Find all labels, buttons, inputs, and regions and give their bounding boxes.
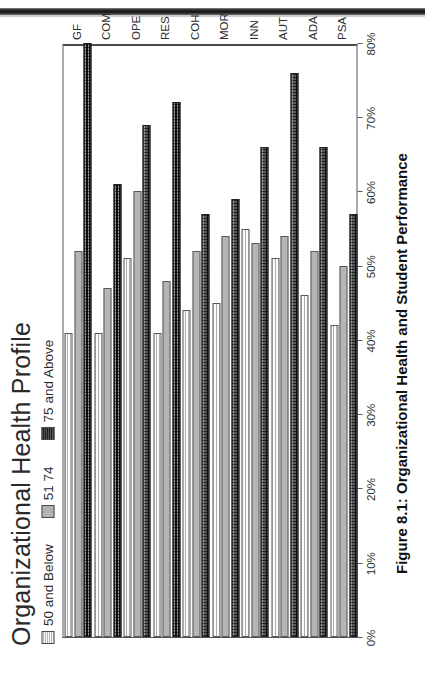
- chart-legend: 50 and Below 51 74 75 and Above: [40, 340, 55, 644]
- scanned-page: Organizational Health Profile 50 and Bel…: [0, 0, 425, 694]
- mid-gray-swatch: [41, 505, 54, 518]
- bar-com-s1: [103, 288, 111, 637]
- bar-group: [181, 46, 211, 637]
- axis-tick-label: 10%: [364, 552, 376, 575]
- axis-tick: [357, 563, 362, 564]
- bar-mor-s2: [231, 199, 239, 637]
- category-label-coh: COH: [188, 14, 200, 40]
- axis-tick-label: 20%: [364, 478, 376, 501]
- axis-tick: [357, 192, 362, 193]
- bar-inn-s2: [260, 147, 268, 637]
- bar-group: [122, 46, 152, 637]
- bar-ope-s2: [142, 125, 150, 637]
- figure-8-1: Organizational Health Profile 50 and Bel…: [0, 18, 425, 694]
- bar-inn-s0: [241, 229, 249, 637]
- legend-item-2: 75 and Above: [40, 340, 55, 441]
- bar-group: [240, 46, 270, 637]
- legend-item-0: 50 and Below: [40, 544, 55, 644]
- bar-ada-s2: [319, 147, 327, 637]
- plot-area: [62, 44, 357, 638]
- legend-label-1: 51 74: [40, 466, 55, 500]
- bar-container: [63, 46, 356, 637]
- bar-ada-s1: [310, 251, 318, 637]
- figure-caption: Figure 8.1: Organizational Health and St…: [392, 153, 409, 574]
- axis-tick: [357, 266, 362, 267]
- bar-coh-s2: [201, 214, 209, 637]
- axis-tick-label: 0%: [364, 630, 376, 647]
- bar-mor-s1: [221, 236, 229, 637]
- category-label-gf: GF: [70, 24, 82, 40]
- bar-gf-s2: [83, 43, 91, 637]
- axis-tick: [357, 637, 362, 638]
- bar-ada-s0: [300, 295, 308, 637]
- bar-com-s2: [113, 184, 121, 637]
- bar-ope-s1: [133, 192, 141, 638]
- chart-title: Organizational Health Profile: [6, 322, 35, 646]
- bar-group: [63, 46, 93, 637]
- category-axis: GFCOMOPERESCOHMORINNAUTADAPSA: [62, 2, 357, 42]
- legend-label-0: 50 and Below: [40, 544, 55, 626]
- bar-group: [270, 46, 300, 637]
- bar-group: [211, 46, 241, 637]
- category-label-mor: MOR: [217, 13, 229, 40]
- bar-group: [329, 46, 359, 637]
- category-label-ope: OPE: [129, 16, 141, 40]
- bar-group: [93, 46, 123, 637]
- axis-tick: [357, 414, 362, 415]
- bar-psa-s1: [339, 266, 347, 637]
- axis-tick-label: 40%: [364, 329, 376, 352]
- category-label-com: COM: [99, 13, 111, 40]
- legend-item-1: 51 74: [40, 466, 55, 518]
- bar-aut-s2: [290, 73, 298, 637]
- light-hatch-swatch: [41, 631, 54, 644]
- axis-tick-label: 80%: [364, 32, 376, 55]
- axis-tick: [357, 489, 362, 490]
- bar-group: [299, 46, 329, 637]
- axis-tick-label: 30%: [364, 404, 376, 427]
- bar-inn-s1: [251, 243, 259, 637]
- category-label-res: RES: [158, 16, 170, 40]
- axis-tick: [357, 117, 362, 118]
- bar-group: [152, 46, 182, 637]
- category-label-ada: ADA: [306, 16, 318, 40]
- bar-coh-s0: [182, 310, 190, 637]
- bar-psa-s2: [349, 214, 357, 637]
- bar-mor-s0: [212, 303, 220, 637]
- bar-gf-s1: [74, 251, 82, 637]
- bar-res-s0: [153, 333, 161, 637]
- bar-aut-s1: [280, 236, 288, 637]
- legend-label-2: 75 and Above: [40, 340, 55, 423]
- bar-res-s1: [162, 281, 170, 637]
- category-label-aut: AUT: [276, 17, 288, 40]
- axis-tick-label: 50%: [364, 255, 376, 278]
- bar-com-s0: [94, 333, 102, 637]
- axis-tick: [357, 43, 362, 44]
- category-label-psa: PSA: [335, 17, 347, 40]
- rotated-figure-wrapper: Organizational Health Profile 50 and Bel…: [0, 18, 425, 694]
- category-label-inn: INN: [247, 20, 259, 40]
- axis-tick-label: 70%: [364, 107, 376, 130]
- bar-gf-s0: [64, 333, 72, 637]
- bar-ope-s0: [123, 258, 131, 637]
- axis-tick: [357, 340, 362, 341]
- bar-coh-s1: [192, 251, 200, 637]
- bar-psa-s0: [330, 325, 338, 637]
- bar-res-s2: [172, 102, 180, 637]
- axis-tick-label: 60%: [364, 181, 376, 204]
- value-axis: 0%10%20%30%40%50%60%70%80%: [357, 44, 397, 638]
- bar-aut-s0: [271, 258, 279, 637]
- dark-checker-swatch: [41, 427, 54, 440]
